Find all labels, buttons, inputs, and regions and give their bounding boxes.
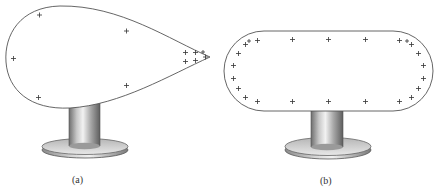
stand-post-a [69, 103, 100, 149]
conductor-figure [0, 0, 436, 192]
panel-a [6, 6, 210, 158]
caption-a: (a) [72, 175, 83, 185]
stand-post-b [311, 110, 343, 150]
caption-b: (b) [320, 176, 332, 186]
panel-b [224, 31, 433, 159]
teardrop-conductor [6, 6, 210, 108]
